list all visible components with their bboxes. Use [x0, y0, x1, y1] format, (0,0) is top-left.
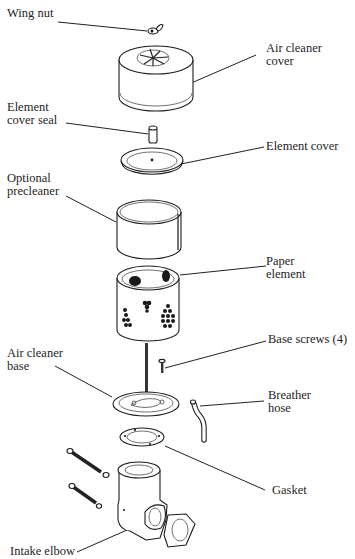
- label-element-cover: Element cover: [266, 140, 339, 153]
- label-optional-precleaner: Optional precleaner: [7, 172, 59, 198]
- leader-base-screws: [165, 341, 266, 368]
- air-cleaner-cover-part: [119, 46, 193, 111]
- base-screw-part: [159, 359, 165, 373]
- label-paper-element: Paper element: [266, 255, 306, 281]
- label-intake-elbow: Intake elbow: [10, 545, 75, 558]
- leader-element-cover: [181, 147, 264, 164]
- leader-gasket: [165, 446, 265, 490]
- label-air-cleaner-cover: Air cleaner cover: [266, 42, 322, 68]
- wing-nut-part: [148, 25, 163, 35]
- paper-element-part: [117, 266, 179, 341]
- label-element-cover-seal: Element cover seal: [7, 101, 57, 127]
- leader-paper-element: [180, 266, 266, 275]
- leader-intake-elbow: [77, 530, 127, 552]
- optional-precleaner-part: [117, 200, 181, 259]
- element-cover-seal-part: [149, 126, 157, 143]
- leader-optional-precleaner: [66, 196, 116, 222]
- leader-air-cleaner-base: [55, 366, 112, 397]
- intake-elbow-part: [118, 462, 195, 547]
- element-cover-part: [121, 148, 183, 174]
- stud-part: [145, 343, 148, 400]
- label-gasket: Gasket: [272, 484, 307, 497]
- leader-wing-nut: [58, 22, 147, 31]
- elbow-bolts-part: [67, 449, 109, 509]
- label-air-cleaner-base: Air cleaner base: [7, 347, 63, 373]
- label-base-screws: Base screws (4): [268, 333, 347, 346]
- label-wing-nut: Wing nut: [7, 7, 53, 20]
- leader-air-cleaner-cover: [189, 55, 256, 84]
- leader-element-cover-seal: [66, 123, 148, 134]
- leader-breather-hose: [200, 401, 264, 406]
- gasket-part: [120, 428, 164, 446]
- label-breather-hose: Breather hose: [268, 389, 311, 415]
- air-cleaner-base-part: [113, 392, 179, 416]
